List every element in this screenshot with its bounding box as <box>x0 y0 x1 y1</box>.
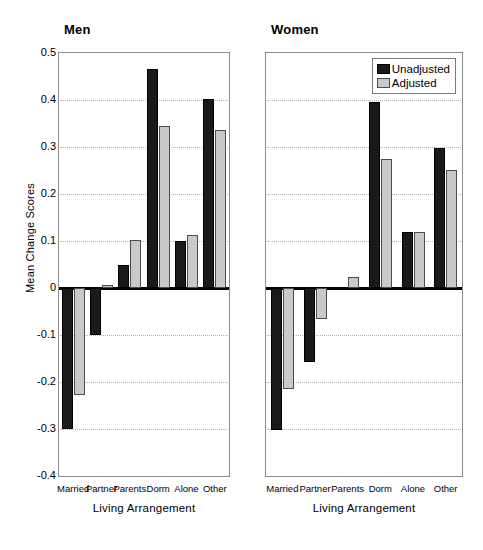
bar-women-partner-adjusted <box>316 288 327 319</box>
bar-men-married-unadjusted <box>62 288 73 429</box>
bar-women-other-adjusted <box>446 170 457 288</box>
bar-women-dorm-unadjusted <box>369 102 380 288</box>
legend-label-unadjusted: Unadjusted <box>392 62 450 76</box>
panel-women: Women Unadjusted Adjusted <box>265 52 463 477</box>
gridline <box>267 241 461 242</box>
gridline <box>267 194 461 195</box>
gridline <box>267 382 461 383</box>
panel-title-men: Men <box>64 22 91 37</box>
y-axis-tick-0p4: 0.4 <box>18 94 56 105</box>
bar-women-other-unadjusted <box>434 148 445 288</box>
legend-swatch-unadjusted-icon <box>377 64 390 74</box>
legend: Unadjusted Adjusted <box>372 58 456 94</box>
figure-canvas: Mean Change Scores 0.50.40.30.20.10-0.1-… <box>0 0 483 550</box>
gridline <box>60 335 228 336</box>
legend-swatch-adjusted-icon <box>377 78 390 88</box>
x-axis-title-women: Living Arrangement <box>265 502 463 514</box>
x-axis-tick-women-other: Other <box>416 484 476 494</box>
x-axis-tick-men-other: Other <box>185 484 245 494</box>
bar-men-partner-adjusted <box>102 285 113 288</box>
bar-men-married-adjusted <box>74 288 85 395</box>
legend-item-unadjusted: Unadjusted <box>377 62 450 76</box>
gridline <box>267 147 461 148</box>
y-axis-tick-neg0p1: -0.1 <box>18 329 56 340</box>
bar-women-alone-unadjusted <box>402 232 413 288</box>
panel-title-women: Women <box>271 22 319 37</box>
gridline <box>60 429 228 430</box>
bar-women-alone-adjusted <box>414 232 425 288</box>
gridline <box>60 382 228 383</box>
y-axis-tick-neg0p2: -0.2 <box>18 376 56 387</box>
plot-area-men <box>59 53 229 476</box>
plot-area-women <box>266 53 462 476</box>
y-axis-tick-0p5: 0.5 <box>18 47 56 58</box>
bar-men-parents-unadjusted <box>118 265 129 289</box>
bar-women-partner-unadjusted <box>304 288 315 362</box>
gridline <box>267 429 461 430</box>
y-axis-tick-0: 0 <box>18 282 56 293</box>
bar-men-alone-adjusted <box>187 235 198 288</box>
bar-men-partner-unadjusted <box>90 288 101 335</box>
legend-item-adjusted: Adjusted <box>377 76 450 90</box>
bar-women-married-adjusted <box>283 288 294 389</box>
panel-men: Men <box>58 52 230 477</box>
x-axis-title-men: Living Arrangement <box>58 502 230 514</box>
y-axis-tick-0p1: 0.1 <box>18 235 56 246</box>
bar-women-parents-adjusted <box>348 277 359 288</box>
bar-women-married-unadjusted <box>271 288 282 430</box>
bar-men-other-unadjusted <box>203 99 214 288</box>
bar-women-dorm-adjusted <box>381 159 392 288</box>
bar-men-alone-unadjusted <box>175 241 186 288</box>
y-axis-tick-neg0p3: -0.3 <box>18 423 56 434</box>
zero-baseline <box>266 287 462 290</box>
bar-men-other-adjusted <box>215 130 226 288</box>
legend-label-adjusted: Adjusted <box>392 76 437 90</box>
y-axis-tick-0p2: 0.2 <box>18 188 56 199</box>
bar-men-parents-adjusted <box>130 240 141 288</box>
y-axis-tick-neg0p4: -0.4 <box>18 470 56 481</box>
gridline <box>267 335 461 336</box>
bar-men-dorm-unadjusted <box>147 69 158 288</box>
bar-men-dorm-adjusted <box>159 126 170 288</box>
gridline <box>267 100 461 101</box>
y-axis-tick-0p3: 0.3 <box>18 141 56 152</box>
